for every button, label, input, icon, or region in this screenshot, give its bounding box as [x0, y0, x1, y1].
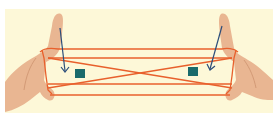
string-figure-photo — [0, 0, 277, 118]
left-marker-square — [75, 69, 85, 78]
right-marker-square — [188, 67, 198, 76]
